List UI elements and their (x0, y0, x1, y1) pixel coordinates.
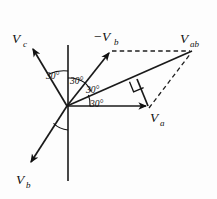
phasor-diagram-figure: 30° 30° 30° 30° V c −V b V ab V a V b (0, 0, 217, 199)
angle-label-axis-negvb: 30° (69, 76, 84, 86)
label-vc-sub: c (23, 39, 27, 49)
label-vab-base: V (180, 31, 190, 46)
label-va-base: V (150, 110, 160, 125)
label-vb-sub: b (26, 180, 31, 190)
label-vc-base: V (12, 31, 22, 46)
label-neg-vb-base: −V (93, 29, 112, 44)
vector-vab (67, 51, 192, 106)
angle-label-vab-va: 30° (89, 99, 104, 109)
angle-label-negvb-vab: 30° (85, 85, 100, 95)
label-vab-sub: ab (190, 39, 200, 49)
label-neg-vb-sub: b (114, 37, 119, 47)
label-va-sub: a (160, 118, 165, 128)
phasor-diagram-canvas: 30° 30° 30° 30° V c −V b V ab V a V b (0, 0, 217, 199)
vector-perpendicular (137, 79, 148, 106)
angle-label-vc-axis: 30° (45, 71, 60, 81)
vector-vb (31, 106, 67, 162)
label-vb-base: V (16, 172, 26, 187)
